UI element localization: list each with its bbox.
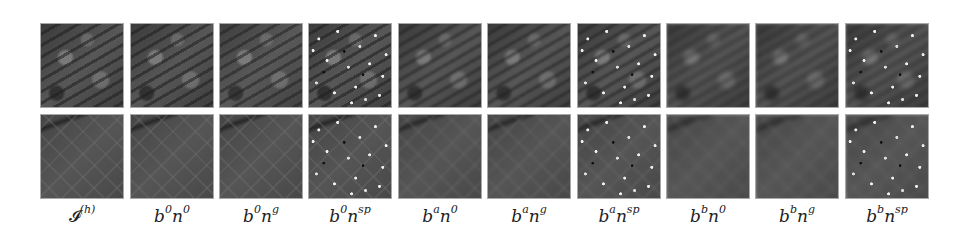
tile-r1-bbnsp [845, 23, 929, 108]
tile-r2-b0n0 [130, 114, 214, 199]
tile-r2-bansp [577, 114, 661, 199]
tile-r2-bbnsp [845, 114, 929, 199]
tile-r1-bbn0 [666, 23, 750, 108]
tile-r1-b0ng [219, 23, 303, 108]
tile-r2-b0nsp [308, 114, 392, 199]
label-ban0: ban0 [398, 206, 482, 226]
label-bang: bang [487, 206, 571, 226]
tile-r1-bansp [577, 23, 661, 108]
tile-r2-bbng [755, 114, 839, 199]
tile-r2-bbn0 [666, 114, 750, 199]
tile-r1-ban0 [398, 23, 482, 108]
degradation-figure: 𝓘(h) b0n0 b0ng b0nsp ban0 bang bansp bbn… [0, 0, 976, 235]
tile-r1-b0n0 [130, 23, 214, 108]
tile-r1-original [40, 23, 124, 108]
label-bbnsp: bbnsp [845, 206, 929, 226]
label-bbng: bbng [755, 206, 839, 226]
label-b0n0: b0n0 [130, 206, 214, 226]
label-b0nsp: b0nsp [308, 206, 392, 226]
label-original: 𝓘(h) [40, 206, 124, 226]
tile-r1-bang [487, 23, 571, 108]
tile-r1-bbng [755, 23, 839, 108]
tile-r2-ban0 [398, 114, 482, 199]
tile-r2-b0ng [219, 114, 303, 199]
label-bbn0: bbn0 [666, 206, 750, 226]
label-b0ng: b0ng [219, 206, 303, 226]
tile-r2-original [40, 114, 124, 199]
tile-r1-b0nsp [308, 23, 392, 108]
tile-r2-bang [487, 114, 571, 199]
label-bansp: bansp [577, 206, 661, 226]
